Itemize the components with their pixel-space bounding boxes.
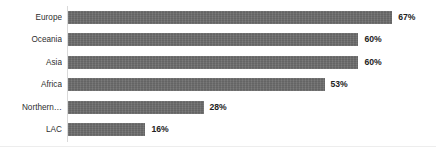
category-label: Africa <box>0 78 62 91</box>
bar-row: Africa53% <box>0 78 436 100</box>
category-label: Northern… <box>0 101 62 114</box>
bar-row: Northern…28% <box>0 101 436 123</box>
chart-bottom-rule <box>0 146 436 147</box>
category-label: LAC <box>0 123 62 136</box>
bar-row: LAC16% <box>0 123 436 145</box>
bar-value-label: 60% <box>364 56 381 69</box>
bar-value-label: 60% <box>364 33 381 46</box>
bar-value-label: 16% <box>151 123 168 136</box>
bar-row: Europe67% <box>0 11 436 33</box>
bar <box>68 11 392 24</box>
bar <box>68 56 358 69</box>
bar-chart: Europe67%Oceania60%Asia60%Africa53%North… <box>0 0 436 148</box>
bar <box>68 78 325 91</box>
bar <box>68 101 204 114</box>
bar <box>68 123 145 136</box>
bar-value-label: 28% <box>210 101 227 114</box>
bar-row: Asia60% <box>0 56 436 78</box>
bar-row: Oceania60% <box>0 33 436 55</box>
bar-value-label: 53% <box>331 78 348 91</box>
category-label: Oceania <box>0 33 62 46</box>
category-label: Europe <box>0 11 62 24</box>
category-label: Asia <box>0 56 62 69</box>
bar-value-label: 67% <box>398 11 415 24</box>
bar <box>68 33 358 46</box>
plot-area: Europe67%Oceania60%Asia60%Africa53%North… <box>0 0 436 148</box>
